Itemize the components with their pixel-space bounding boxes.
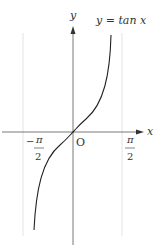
tan-graph: y y = tan x x O − π 2 π 2 xyxy=(0,0,161,252)
right-asymptote-numerator: π xyxy=(126,134,134,145)
tan-curve xyxy=(34,35,111,230)
right-asymptote-denominator: 2 xyxy=(127,151,133,162)
function-label: y = tan x xyxy=(95,14,147,27)
y-axis-arrow-icon xyxy=(71,26,76,34)
origin-label: O xyxy=(76,136,85,149)
left-asymptote-sign: − xyxy=(26,136,34,147)
y-axis-label: y xyxy=(69,9,77,22)
x-axis-arrow-icon xyxy=(136,130,144,135)
left-asymptote-denominator: 2 xyxy=(35,151,41,162)
left-asymptote-numerator: π xyxy=(35,134,43,145)
x-axis-label: x xyxy=(147,125,154,138)
